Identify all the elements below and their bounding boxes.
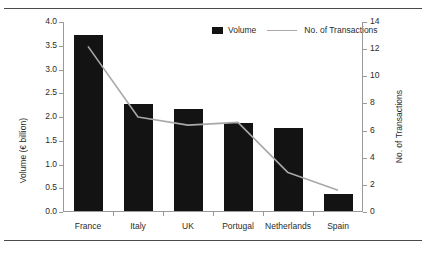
y-axis-left-tick: [59, 212, 63, 213]
x-axis-label-france: France: [63, 221, 113, 231]
y-axis-right-tick: [363, 185, 367, 186]
y-axis-right-tick-label: 2: [370, 180, 400, 189]
y-axis-left-tick-label: 0.0: [17, 207, 57, 216]
y-axis-right-tick-label: 6: [370, 126, 400, 135]
y-axis-right-tick-label: 4: [370, 153, 400, 162]
y-axis-left-title: Volume (€ billion): [18, 118, 28, 183]
y-axis-right-tick-label: 10: [370, 71, 400, 80]
y-axis-right-tick: [363, 76, 367, 77]
chart-figure: Volume No. of Transactions Volume (€ bil…: [0, 0, 426, 256]
x-axis-label-uk: UK: [163, 221, 213, 231]
y-axis-right-tick: [363, 131, 367, 132]
y-axis-left-tick-label: 2.0: [17, 112, 57, 121]
line-series-transactions: [63, 22, 363, 212]
x-axis-label-portugal: Portugal: [213, 221, 263, 231]
y-axis-right-tick: [363, 103, 367, 104]
y-axis-right-tick-label: 12: [370, 44, 400, 53]
plot-area: 0.00.51.01.52.02.53.03.54.0 02468101214 …: [63, 22, 363, 212]
y-axis-right-tick: [363, 22, 367, 23]
y-axis-left-tick-label: 0.5: [17, 183, 57, 192]
y-axis-right-tick: [363, 158, 367, 159]
y-axis-right-tick-label: 14: [370, 17, 400, 26]
y-axis-left-tick-label: 4.0: [17, 17, 57, 26]
y-axis-left-tick-label: 1.0: [17, 160, 57, 169]
y-axis-left-tick-label: 3.5: [17, 41, 57, 50]
y-axis-right-tick-label: 0: [370, 207, 400, 216]
y-axis-left-tick-label: 3.0: [17, 65, 57, 74]
y-axis-right-tick: [363, 212, 367, 213]
top-rule: [4, 8, 422, 9]
y-axis-right-tick-label: 8: [370, 98, 400, 107]
y-axis-right-tick: [363, 49, 367, 50]
bottom-rule: [4, 240, 422, 241]
y-axis-left-tick-label: 2.5: [17, 88, 57, 97]
x-axis-label-netherlands: Netherlands: [263, 221, 313, 231]
y-axis-left-tick-label: 1.5: [17, 136, 57, 145]
x-axis-label-spain: Spain: [313, 221, 363, 231]
x-axis-label-italy: Italy: [113, 221, 163, 231]
